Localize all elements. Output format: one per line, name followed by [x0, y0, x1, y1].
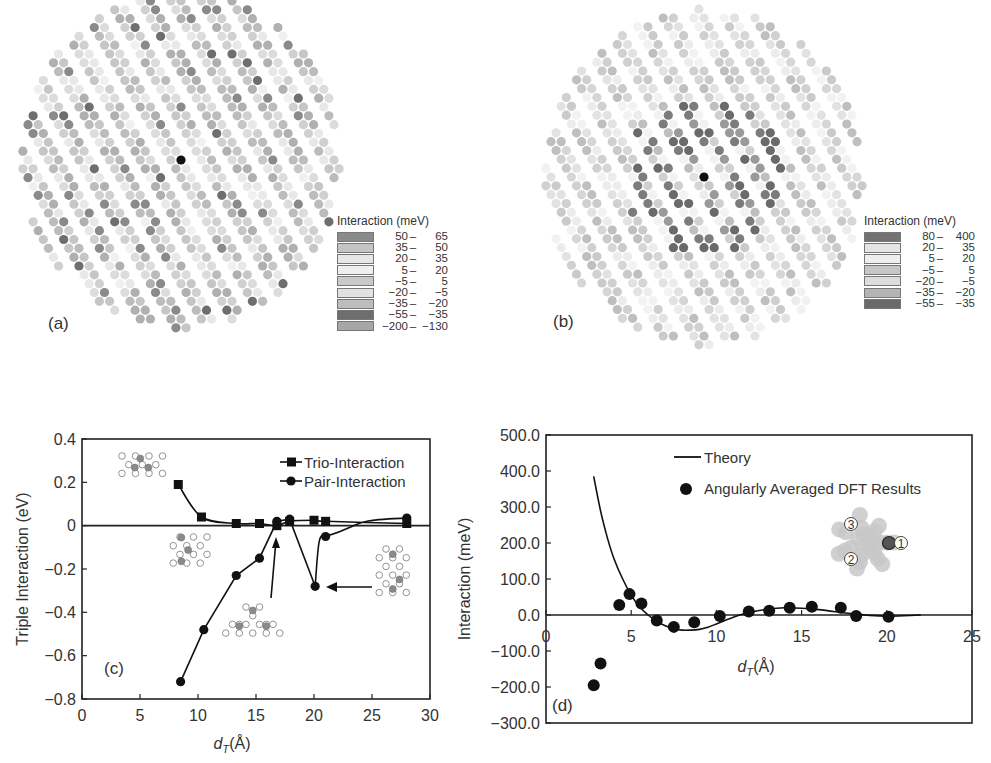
lattice-site [202, 217, 211, 226]
lattice-site [176, 49, 185, 58]
lattice-site [212, 270, 221, 279]
lattice-site [227, 208, 236, 217]
lattice-site [648, 49, 657, 58]
lattice-site [659, 155, 668, 164]
lattice-site [592, 270, 601, 279]
lattice-site [166, 297, 175, 306]
legend-pair-label: Pair-Interaction [304, 473, 406, 490]
lattice-site [222, 288, 231, 297]
lattice-site [243, 76, 252, 85]
lattice-site [638, 31, 647, 40]
lattice-site [705, 305, 714, 314]
lattice-site [263, 111, 272, 120]
lattice-site [212, 129, 221, 138]
lattice-site [669, 119, 678, 128]
lattice-site [294, 58, 303, 67]
lattice-site [304, 164, 313, 173]
lattice-site [730, 172, 739, 181]
lattice-site [827, 93, 836, 102]
lattice-site [120, 288, 129, 297]
lattice-site [618, 102, 627, 111]
lattice-site [822, 84, 831, 93]
lattice-site [781, 49, 790, 58]
arrow-head-17 [272, 537, 280, 548]
lattice-site [796, 75, 805, 84]
lattice-site [740, 137, 749, 146]
lattice-site [217, 67, 226, 76]
lattice-site [776, 111, 785, 120]
lattice-site [233, 94, 242, 103]
lattice-site [847, 217, 856, 226]
lattice-site [689, 331, 698, 340]
legend-swatch [337, 299, 374, 309]
lattice-site [166, 102, 175, 111]
lattice-site [238, 155, 247, 164]
lattice-site [233, 164, 242, 173]
legend-high: 5 [945, 265, 975, 276]
lattice-site [151, 23, 160, 32]
lattice-site [740, 84, 749, 93]
lattice-site [740, 296, 749, 305]
lattice-site [694, 5, 703, 14]
lattice-site [192, 306, 201, 315]
lattice-site [699, 296, 708, 305]
lattice-site [64, 191, 73, 200]
lattice-site [222, 306, 231, 315]
lattice-site [674, 40, 683, 49]
lattice-site [202, 41, 211, 50]
lattice-site [85, 120, 94, 129]
lattice-site [730, 84, 739, 93]
legend-row: 50–65 [337, 231, 448, 242]
lattice-site [715, 146, 724, 155]
lattice-site [187, 85, 196, 94]
lattice-site [44, 85, 53, 94]
lattice-site [227, 85, 236, 94]
lattice-site [730, 225, 739, 234]
lattice-site [227, 32, 236, 41]
lattice-site [812, 66, 821, 75]
lattice-site [817, 164, 826, 173]
motif-site [222, 630, 229, 637]
lattice-site [807, 111, 816, 120]
lattice-site [745, 252, 754, 261]
lattice-site [648, 261, 657, 270]
lattice-site [679, 296, 688, 305]
lattice-site [294, 217, 303, 226]
lattice-site [761, 137, 770, 146]
lattice-site [587, 155, 596, 164]
lattice-site [217, 244, 226, 253]
lattice-site [562, 252, 571, 261]
lattice-site [324, 217, 333, 226]
lattice-site [187, 120, 196, 129]
lattice-site [832, 243, 841, 252]
lattice-site [705, 40, 714, 49]
lattice-site [761, 119, 770, 128]
lattice-site [151, 76, 160, 85]
lattice-site [597, 49, 606, 58]
lattice-site [273, 270, 282, 279]
lattice-site [80, 164, 89, 173]
lattice-site [684, 164, 693, 173]
lattice-site [750, 119, 759, 128]
lattice-site [115, 14, 124, 23]
lattice-site [847, 164, 856, 173]
lattice-site [608, 225, 617, 234]
dft-marker [743, 605, 755, 617]
lattice-site [679, 261, 688, 270]
lattice-site [146, 155, 155, 164]
lattice-site [217, 120, 226, 129]
lattice-site [284, 76, 293, 85]
lattice-site [679, 190, 688, 199]
lattice-site [812, 172, 821, 181]
lattice-site [628, 155, 637, 164]
lattice-site [176, 208, 185, 217]
lattice-site [786, 128, 795, 137]
lattice-site [131, 76, 140, 85]
lattice-site [171, 253, 180, 262]
y-tick-label: 100.0 [500, 571, 540, 588]
lattice-site [817, 234, 826, 243]
lattice-site [151, 182, 160, 191]
lattice-site [49, 164, 58, 173]
lattice-site [187, 32, 196, 41]
lattice-site [699, 243, 708, 252]
